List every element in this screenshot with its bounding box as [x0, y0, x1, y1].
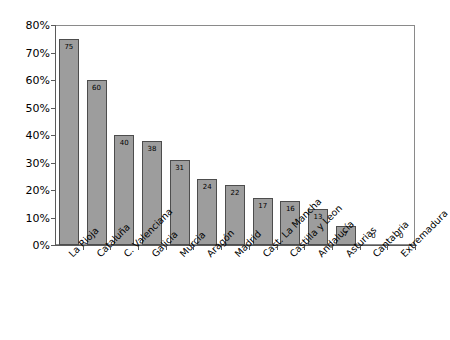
x-axis-tick-mark: [83, 246, 84, 250]
x-axis-tick-mark: [415, 246, 416, 250]
x-axis-tick-mark: [360, 246, 361, 250]
x-axis-tick-mark: [138, 246, 139, 250]
x-axis-category-label: La Rioja: [67, 225, 101, 259]
x-axis-tick-mark: [110, 246, 111, 250]
y-axis-tick-mark: [51, 245, 56, 246]
x-axis-tick-mark: [277, 246, 278, 250]
y-axis-tick-mark: [51, 108, 56, 109]
x-axis-tick-mark: [304, 246, 305, 250]
x-axis-tick-mark: [193, 246, 194, 250]
y-axis-tick-mark: [51, 25, 56, 26]
x-axis-tick-mark: [166, 246, 167, 250]
x-axis-category-label: Extremadura: [399, 208, 450, 259]
y-axis-tick-mark: [51, 163, 56, 164]
x-axis-tick-mark: [332, 246, 333, 250]
y-axis-tick-mark: [51, 190, 56, 191]
x-axis-category-label: Madrid: [233, 229, 263, 259]
y-axis-tick-mark: [51, 53, 56, 54]
y-axis-tick-mark: [51, 135, 56, 136]
x-axis-category-label: Aragón: [205, 228, 236, 259]
y-axis-tick-mark: [51, 218, 56, 219]
x-axis-tick-mark: [249, 246, 250, 250]
x-axis-tick-mark: [221, 246, 222, 250]
x-axis-tick-mark: [387, 246, 388, 250]
y-axis-tick-mark: [51, 80, 56, 81]
x-axis-category-label: Murcia: [178, 230, 207, 259]
